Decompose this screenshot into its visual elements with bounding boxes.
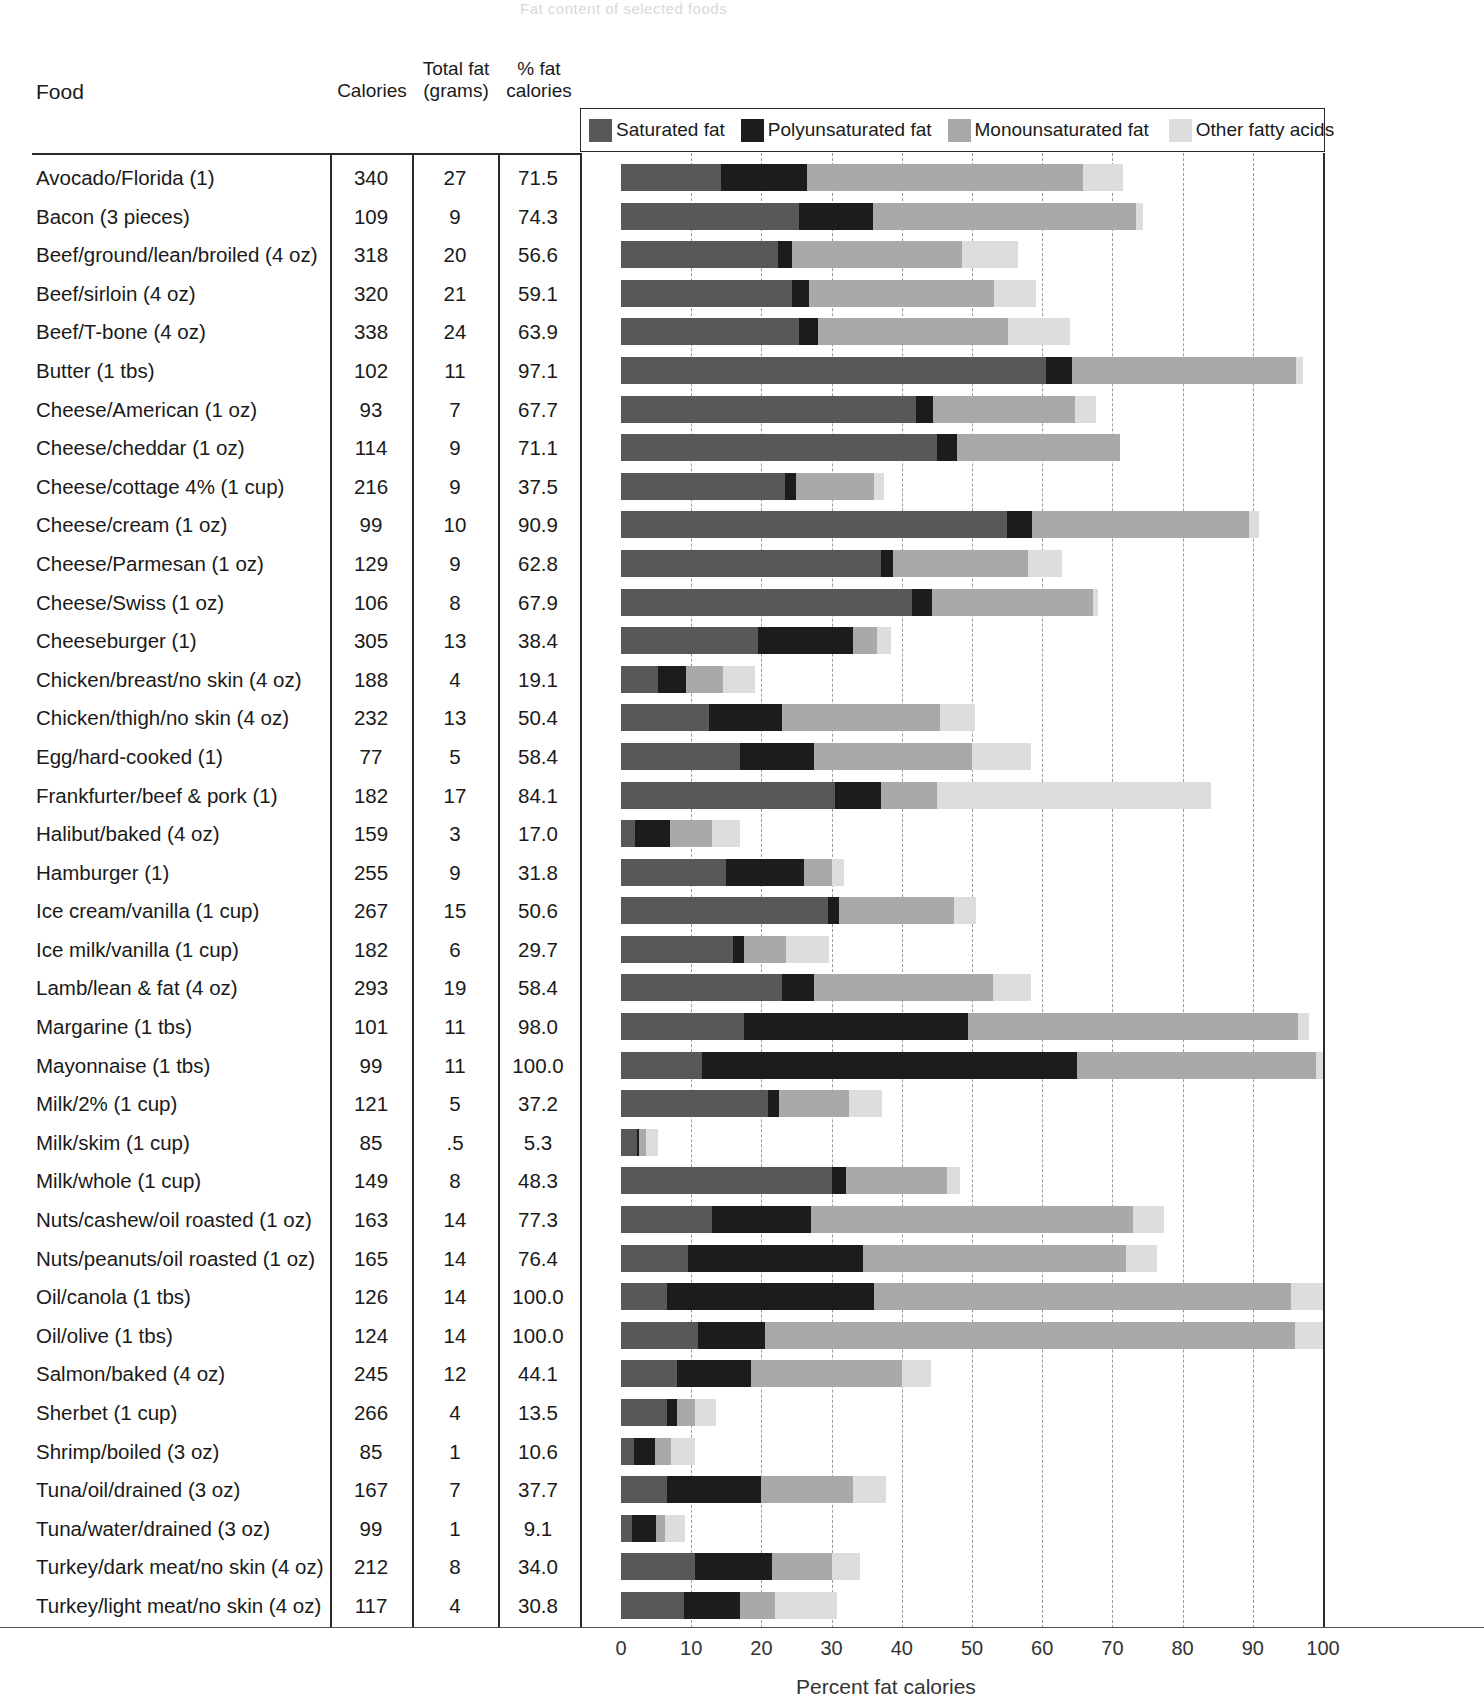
cell-total-fat: 14 xyxy=(414,1208,496,1232)
bar-segment-other xyxy=(1133,1206,1163,1233)
cell-total-fat: 5 xyxy=(414,1092,496,1116)
bar-segment-polyunsaturated xyxy=(658,666,686,693)
bar-segment-monounsaturated xyxy=(765,1322,1295,1349)
bar-segment-other xyxy=(646,1129,659,1156)
stacked-bar xyxy=(621,1399,716,1426)
cell-total-fat: 13 xyxy=(414,629,496,653)
bar-segment-monounsaturated xyxy=(804,859,832,886)
bar-segment-other xyxy=(874,473,885,500)
bar-segment-other xyxy=(849,1090,882,1117)
cell-calories: 149 xyxy=(333,1169,409,1193)
table-row: Cheese/cheddar (1 oz)114971.1 xyxy=(0,428,1484,467)
stacked-bar xyxy=(621,627,891,654)
bar-segment-saturated xyxy=(621,743,740,770)
stacked-bar xyxy=(621,1245,1157,1272)
cell-food: Cheese/Swiss (1 oz) xyxy=(36,591,224,615)
stacked-bar xyxy=(621,1553,860,1580)
table-row: Tuna/oil/drained (3 oz)167737.7 xyxy=(0,1470,1484,1509)
cell-calories: 85 xyxy=(333,1440,409,1464)
column-header-total-fat-line2: (grams) xyxy=(412,80,500,102)
bar-segment-monounsaturated xyxy=(751,1360,902,1387)
legend-label: Monounsaturated fat xyxy=(975,119,1149,141)
chart-legend: Saturated fatPolyunsaturated fatMonounsa… xyxy=(580,108,1325,152)
cell-total-fat: 4 xyxy=(414,1401,496,1425)
bar-segment-other xyxy=(940,704,975,731)
cell-total-fat: 7 xyxy=(414,1478,496,1502)
cell-total-fat: 14 xyxy=(414,1247,496,1271)
bar-segment-monounsaturated xyxy=(744,936,786,963)
bar-segment-polyunsaturated xyxy=(721,164,807,191)
bar-segment-polyunsaturated xyxy=(828,897,839,924)
stacked-bar xyxy=(621,1206,1164,1233)
stacked-bar xyxy=(621,357,1303,384)
cell-food: Sherbet (1 cup) xyxy=(36,1401,177,1425)
cell-food: Egg/hard-cooked (1) xyxy=(36,745,223,769)
bar-segment-other xyxy=(853,1476,886,1503)
bar-segment-other xyxy=(1136,203,1143,230)
cell-calories: 305 xyxy=(333,629,409,653)
cell-pct-fat: 9.1 xyxy=(499,1517,577,1541)
bar-segment-saturated xyxy=(621,1322,698,1349)
cell-total-fat: 20 xyxy=(414,243,496,267)
bar-segment-polyunsaturated xyxy=(740,743,814,770)
x-axis-tick-label: 60 xyxy=(1031,1637,1053,1660)
cell-total-fat: 8 xyxy=(414,1169,496,1193)
table-row: Bacon (3 pieces)109974.3 xyxy=(0,197,1484,236)
cell-calories: 232 xyxy=(333,706,409,730)
bar-segment-polyunsaturated xyxy=(799,318,819,345)
table-row: Egg/hard-cooked (1)77558.4 xyxy=(0,737,1484,776)
table-row: Salmon/baked (4 oz)2451244.1 xyxy=(0,1354,1484,1393)
cell-total-fat: 11 xyxy=(414,1015,496,1039)
cell-calories: 167 xyxy=(333,1478,409,1502)
cell-total-fat: 5 xyxy=(414,745,496,769)
bar-segment-saturated xyxy=(621,1476,667,1503)
table-row: Shrimp/boiled (3 oz)85110.6 xyxy=(0,1432,1484,1471)
cell-pct-fat: 50.6 xyxy=(499,899,577,923)
bar-segment-monounsaturated xyxy=(814,974,993,1001)
bar-segment-saturated xyxy=(621,1438,634,1465)
bar-segment-polyunsaturated xyxy=(632,1515,657,1542)
bar-segment-polyunsaturated xyxy=(758,627,853,654)
bar-segment-other xyxy=(832,859,845,886)
stacked-bar xyxy=(621,396,1096,423)
bar-segment-polyunsaturated xyxy=(684,1592,740,1619)
cell-pct-fat: 77.3 xyxy=(499,1208,577,1232)
cell-total-fat: 14 xyxy=(414,1324,496,1348)
bar-segment-polyunsaturated xyxy=(768,1090,779,1117)
bar-segment-monounsaturated xyxy=(814,743,972,770)
cell-food: Nuts/peanuts/oil roasted (1 oz) xyxy=(36,1247,315,1271)
bar-segment-polyunsaturated xyxy=(712,1206,810,1233)
stacked-bar xyxy=(621,1322,1323,1349)
cell-total-fat: 19 xyxy=(414,976,496,1000)
bar-segment-saturated xyxy=(621,897,828,924)
bar-segment-polyunsaturated xyxy=(667,1476,762,1503)
table-row: Sherbet (1 cup)266413.5 xyxy=(0,1393,1484,1432)
cell-food: Nuts/cashew/oil roasted (1 oz) xyxy=(36,1208,312,1232)
bar-segment-other xyxy=(954,897,976,924)
stacked-bar xyxy=(621,203,1143,230)
stacked-bar xyxy=(621,1052,1323,1079)
cell-pct-fat: 62.8 xyxy=(499,552,577,576)
bar-segment-saturated xyxy=(621,164,721,191)
table-row: Margarine (1 tbs)1011198.0 xyxy=(0,1007,1484,1046)
bar-segment-saturated xyxy=(621,1283,667,1310)
cell-calories: 182 xyxy=(333,938,409,962)
bar-segment-monounsaturated xyxy=(818,318,1008,345)
bar-segment-other xyxy=(1291,1283,1323,1310)
cell-calories: 99 xyxy=(333,513,409,537)
cell-food: Cheese/Parmesan (1 oz) xyxy=(36,552,264,576)
bar-segment-polyunsaturated xyxy=(912,589,932,616)
table-row: Turkey/light meat/no skin (4 oz)117430.8 xyxy=(0,1586,1484,1625)
bar-segment-monounsaturated xyxy=(1032,511,1250,538)
bar-segment-saturated xyxy=(621,280,792,307)
cell-pct-fat: 90.9 xyxy=(499,513,577,537)
bar-segment-saturated xyxy=(621,1515,632,1542)
stacked-bar xyxy=(621,666,755,693)
cell-pct-fat: 71.5 xyxy=(499,166,577,190)
bar-segment-other xyxy=(832,1553,860,1580)
bar-segment-saturated xyxy=(621,1399,667,1426)
cell-calories: 129 xyxy=(333,552,409,576)
cell-food: Salmon/baked (4 oz) xyxy=(36,1362,225,1386)
cell-pct-fat: 71.1 xyxy=(499,436,577,460)
cell-food: Butter (1 tbs) xyxy=(36,359,155,383)
